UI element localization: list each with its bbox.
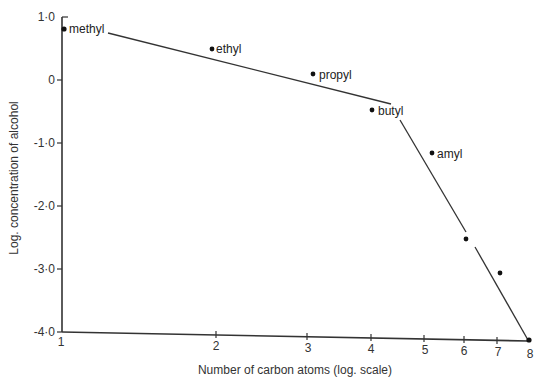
point-label: amyl xyxy=(437,147,462,161)
data-points xyxy=(61,26,531,342)
x-tick-label: 8 xyxy=(527,347,534,361)
point-ethyl xyxy=(210,47,215,52)
x-tick-label: 1 xyxy=(58,335,65,349)
point-label: ethyl xyxy=(216,42,241,56)
point-hexyl xyxy=(464,237,469,242)
point-amyl xyxy=(430,151,435,156)
y-tick-label: 0 xyxy=(48,73,55,87)
y-tick-label: 1·0 xyxy=(38,10,56,24)
x-tick-labels: 1 2 3 4 5 6 7 8 xyxy=(58,335,534,361)
x-tick-label: 7 xyxy=(495,345,502,359)
y-tick-label: -1·0 xyxy=(34,136,56,150)
x-tick-label: 4 xyxy=(368,342,375,356)
fit-line-long-chain-end xyxy=(475,247,528,340)
point-label: propyl xyxy=(319,68,352,82)
y-axis-title: Log. concentration of alcohol xyxy=(7,101,21,254)
chart-canvas: 1·0 0 -1·0 -2·0 -3·0 -4·0 1 2 3 4 5 6 7 … xyxy=(0,0,547,386)
point-octyl xyxy=(526,337,531,342)
fit-line-long-chain xyxy=(400,120,466,232)
x-tick-label: 2 xyxy=(213,339,220,353)
x-tick-label: 6 xyxy=(461,344,468,358)
point-labels: methyl ethyl propyl butyl amyl xyxy=(69,22,462,161)
y-tick-labels: 1·0 0 -1·0 -2·0 -3·0 -4·0 xyxy=(34,10,56,339)
x-axis-title: Number of carbon atoms (log. scale) xyxy=(198,363,392,377)
x-tick-label: 5 xyxy=(422,343,429,357)
x-tick-label: 3 xyxy=(305,341,312,355)
x-axis xyxy=(62,332,528,341)
point-methyl xyxy=(61,26,66,31)
point-heptyl xyxy=(498,271,503,276)
y-tick-label: -2·0 xyxy=(34,199,56,213)
point-label: methyl xyxy=(69,22,104,36)
y-tick-label: -3·0 xyxy=(34,262,56,276)
y-tick-label: -4·0 xyxy=(34,325,56,339)
point-butyl xyxy=(370,108,375,113)
point-propyl xyxy=(311,72,316,77)
point-label: butyl xyxy=(378,104,403,118)
